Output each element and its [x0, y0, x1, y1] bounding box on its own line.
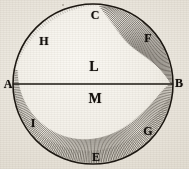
- label-region-l: L: [89, 60, 98, 74]
- paper-speck-artifact: [62, 4, 64, 6]
- engraved-diagram-figure: C F H G I E A B L M: [0, 0, 189, 169]
- label-point-i: I: [31, 117, 36, 129]
- label-point-h: H: [39, 35, 48, 47]
- label-point-a: A: [4, 78, 13, 90]
- circle-engraving: [0, 0, 189, 169]
- label-region-m: M: [88, 92, 101, 106]
- label-point-b: B: [175, 77, 183, 89]
- label-point-e: E: [92, 151, 100, 163]
- label-point-c: C: [91, 9, 100, 21]
- label-point-f: F: [144, 32, 151, 44]
- label-point-g: G: [143, 125, 152, 137]
